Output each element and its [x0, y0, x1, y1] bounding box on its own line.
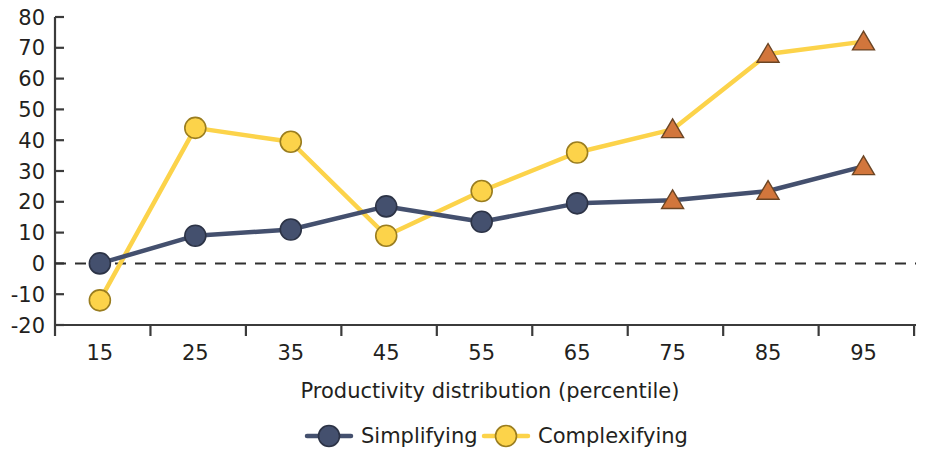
- y-tick-label: 40: [18, 129, 45, 153]
- data-point-circle: [376, 196, 397, 217]
- y-tick-label: -10: [11, 283, 45, 307]
- x-tick-label: 45: [373, 341, 400, 365]
- chart-axes: [55, 17, 916, 336]
- legend-marker-icon: [319, 426, 340, 447]
- x-axis-tick-labels: 152535455565758595: [86, 341, 876, 365]
- x-tick-label: 85: [755, 341, 782, 365]
- y-axis-tick-labels: -20-1001020304050607080: [11, 6, 45, 338]
- data-point-circle: [89, 290, 110, 311]
- x-tick-label: 65: [564, 341, 591, 365]
- data-point-circle: [376, 225, 397, 246]
- y-tick-label: -20: [11, 314, 45, 338]
- x-tick-label: 75: [659, 341, 686, 365]
- y-tick-label: 70: [18, 36, 45, 60]
- data-point-circle: [185, 225, 206, 246]
- line-chart: -20-1001020304050607080 1525354555657585…: [0, 0, 925, 452]
- y-tick-label: 10: [18, 221, 45, 245]
- y-tick-label: 50: [18, 98, 45, 122]
- legend-label-complexifying: Complexifying: [538, 424, 688, 448]
- data-point-circle: [471, 211, 492, 232]
- data-point-circle: [185, 117, 206, 138]
- data-point-circle: [471, 181, 492, 202]
- y-tick-label: 80: [18, 6, 45, 30]
- y-tick-label: 30: [18, 160, 45, 184]
- chart-canvas: -20-1001020304050607080 1525354555657585…: [0, 0, 925, 452]
- data-point-circle: [280, 131, 301, 152]
- data-point-circle: [280, 219, 301, 240]
- chart-legend: SimplifyingComplexifying: [307, 424, 688, 448]
- data-point-triangle: [853, 156, 875, 175]
- y-tick-label: 60: [18, 67, 45, 91]
- x-axis-title: Productivity distribution (percentile): [301, 379, 680, 403]
- legend-marker-icon: [496, 426, 517, 447]
- x-tick-label: 25: [182, 341, 209, 365]
- y-tick-label: 0: [32, 252, 45, 276]
- data-point-circle: [567, 142, 588, 163]
- y-tick-label: 20: [18, 190, 45, 214]
- x-tick-label: 15: [86, 341, 113, 365]
- series-line-complexifying: [100, 42, 864, 301]
- x-tick-label: 55: [468, 341, 495, 365]
- legend-label-simplifying: Simplifying: [361, 424, 478, 448]
- data-point-circle: [89, 253, 110, 274]
- x-tick-label: 35: [277, 341, 304, 365]
- x-tick-label: 95: [850, 341, 877, 365]
- data-series-group: [89, 31, 874, 311]
- data-point-circle: [567, 193, 588, 214]
